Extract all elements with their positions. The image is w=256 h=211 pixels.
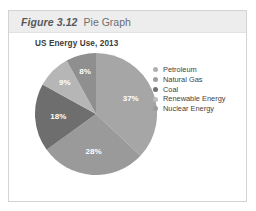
legend-item-label: Renewable Energy (163, 94, 225, 104)
legend-item[interactable]: Coal (153, 85, 225, 95)
chart-area: US Energy Use, 2013 37%28%18%9%8% Petrol… (9, 33, 246, 201)
legend-item-label: Petroleum (163, 65, 197, 75)
pie-slice-value-label: 18% (50, 112, 66, 121)
legend-item[interactable]: Petroleum (153, 65, 225, 75)
chart-legend: PetroleumNatural GasCoalRenewable Energy… (153, 65, 225, 114)
legend-item[interactable]: Nuclear Energy (153, 104, 225, 114)
legend-swatch-icon (153, 77, 158, 82)
legend-swatch-icon (153, 67, 158, 72)
legend-item[interactable]: Natural Gas (153, 75, 225, 85)
pie-slice-value-label: 28% (86, 147, 102, 156)
legend-swatch-icon (153, 106, 158, 111)
legend-item-label: Coal (163, 85, 178, 95)
legend-item-label: Nuclear Energy (163, 104, 214, 114)
legend-item[interactable]: Renewable Energy (153, 94, 225, 104)
figure-caption-bar: Figure 3.12 Pie Graph (9, 11, 246, 33)
pie-svg: 37%28%18%9%8% (35, 53, 157, 175)
chart-title: US Energy Use, 2013 (35, 39, 118, 48)
figure-title: Pie Graph (84, 16, 131, 28)
legend-swatch-icon (153, 97, 158, 102)
figure-container: Figure 3.12 Pie Graph US Energy Use, 201… (8, 10, 247, 202)
pie-slice-value-label: 37% (123, 94, 139, 103)
pie-slice-value-label: 9% (59, 78, 71, 87)
figure-number: Figure 3.12 (21, 16, 78, 28)
legend-item-label: Natural Gas (163, 75, 202, 85)
pie-slice-value-label: 8% (79, 67, 91, 76)
pie-chart: 37%28%18%9%8% (35, 53, 157, 175)
legend-swatch-icon (153, 87, 158, 92)
